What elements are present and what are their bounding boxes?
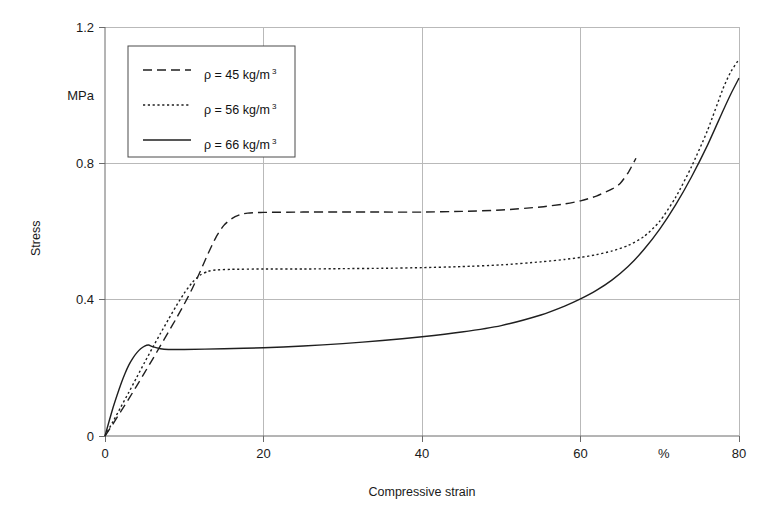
y-axis-title: Stress	[29, 221, 43, 256]
x-tick-label: 0	[101, 446, 108, 461]
y-tick-label: 1.2	[76, 20, 94, 35]
y-tick-label: 0	[87, 429, 94, 444]
stress-strain-chart: 00.40.81.2020406080 %MPaStressCompressiv…	[0, 0, 770, 521]
x-tick-label: 60	[573, 446, 587, 461]
legend-label-0: ρ = 45 kg/m 3	[204, 67, 277, 82]
y-tick-label: 0.8	[76, 156, 94, 171]
x-axis-unit-label: %	[658, 446, 670, 461]
x-tick-label: 20	[256, 446, 270, 461]
legend-label-2: ρ = 66 kg/m 3	[204, 137, 277, 152]
legend-label-1: ρ = 56 kg/m 3	[204, 102, 277, 117]
legend: ρ = 45 kg/m 3ρ = 56 kg/m 3ρ = 66 kg/m 3	[128, 46, 295, 157]
x-tick-label: 40	[415, 446, 429, 461]
x-tick-label: 80	[732, 446, 746, 461]
chart-container: 00.40.81.2020406080 %MPaStressCompressiv…	[0, 0, 770, 521]
x-axis-title: Compressive strain	[369, 485, 476, 499]
axis-titles: %MPaStressCompressive strain	[29, 88, 670, 499]
series-line-rho-45	[105, 158, 636, 436]
y-axis-unit-label: MPa	[67, 88, 95, 103]
y-tick-label: 0.4	[76, 292, 94, 307]
